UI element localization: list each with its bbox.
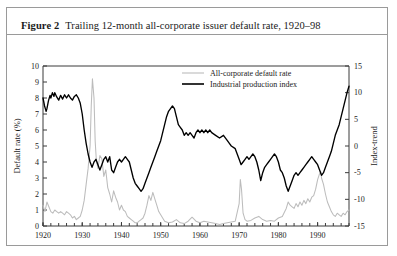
bottom-tick-label: 1960: [192, 231, 208, 240]
figure-number: Figure 2: [21, 20, 59, 31]
right-axis-title: Index-trend: [369, 125, 379, 165]
right-tick-label: 15: [354, 62, 362, 71]
axes-group: 012345678910Default rate (%)-15-10-50510…: [12, 62, 379, 240]
bottom-tick-label: 1980: [270, 231, 286, 240]
legend-label-industrial_production: Industrial production index: [210, 80, 297, 89]
right-tick-label: -5: [354, 168, 361, 177]
legend-group: All-corporate default rateIndustrial pro…: [182, 69, 297, 89]
left-tick-label: 3: [35, 174, 39, 183]
bottom-tick-label: 1990: [310, 231, 326, 240]
left-tick-label: 10: [31, 62, 39, 71]
figure-caption-bar: Figure 2Trailing 12-month all-corporate …: [7, 8, 387, 34]
figure-frame: Figure 2Trailing 12-month all-corporate …: [6, 7, 388, 246]
right-tick-label: 5: [354, 115, 358, 124]
bottom-tick-label: 1920: [35, 231, 51, 240]
left-tick-label: 0: [35, 222, 39, 231]
left-tick-label: 4: [35, 158, 39, 167]
left-tick-label: 7: [35, 110, 39, 119]
legend-label-default_rate: All-corporate default rate: [210, 69, 292, 78]
bottom-tick-label: 1940: [113, 231, 129, 240]
chart-svg: 012345678910Default rate (%)-15-10-50510…: [7, 35, 389, 246]
bottom-tick-label: 1970: [231, 231, 247, 240]
bottom-tick-label: 1930: [74, 231, 90, 240]
right-tick-label: -10: [354, 195, 365, 204]
left-axis-title: Default rate (%): [12, 118, 22, 173]
figure-title: Trailing 12-month all-corporate issuer d…: [65, 20, 320, 31]
right-tick-label: 0: [354, 142, 358, 151]
bottom-tick-label: 1950: [153, 231, 169, 240]
right-tick-label: -15: [354, 222, 365, 231]
left-tick-label: 9: [35, 78, 39, 87]
left-tick-label: 8: [35, 94, 39, 103]
series-line-industrial-production-index: [43, 86, 349, 191]
left-tick-label: 1: [35, 206, 39, 215]
left-tick-label: 5: [35, 142, 39, 151]
series-line-all-corporate-default-rate: [43, 79, 349, 225]
right-tick-label: 10: [354, 88, 362, 97]
left-tick-label: 6: [35, 126, 39, 135]
left-tick-label: 2: [35, 190, 39, 199]
series-group: [43, 79, 349, 225]
chart-plot-area: 012345678910Default rate (%)-15-10-50510…: [7, 35, 389, 246]
